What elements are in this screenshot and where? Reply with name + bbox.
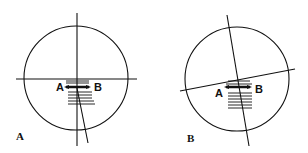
panel-a-tilted-line bbox=[77, 88, 88, 143]
panel-b-point-a-label: A bbox=[215, 87, 223, 99]
panel-a-point-a-label: A bbox=[56, 81, 64, 93]
panel-b-point-b-label: B bbox=[255, 83, 263, 95]
panel-a-hatching bbox=[66, 81, 95, 104]
diagram: A B A A B B bbox=[0, 0, 308, 153]
panel-b-arrowhead-right bbox=[247, 85, 252, 89]
panel-b bbox=[180, 15, 295, 146]
panel-a-point-b-label: B bbox=[94, 81, 102, 93]
panel-b-circle bbox=[185, 27, 289, 131]
panel-b-tilted-vertical-axis bbox=[227, 15, 249, 146]
panel-a-arrowhead-right bbox=[86, 85, 91, 89]
panel-a-label: A bbox=[16, 130, 24, 142]
panel-b-label: B bbox=[187, 132, 195, 144]
panel-a-circle bbox=[24, 26, 128, 130]
panel-a-arrowhead-left bbox=[64, 85, 69, 89]
panel-a bbox=[16, 13, 137, 146]
panel-b-arrowhead-left bbox=[224, 85, 229, 89]
